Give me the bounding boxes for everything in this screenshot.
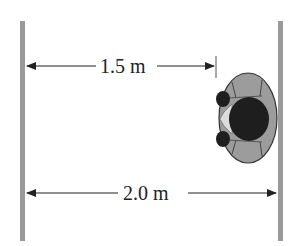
person-icon bbox=[216, 73, 277, 163]
label-1-5m: 1.5 m bbox=[97, 55, 149, 77]
label-2-0m: 2.0 m bbox=[120, 182, 172, 204]
diagram-canvas bbox=[0, 0, 299, 246]
left-wall bbox=[20, 21, 25, 241]
right-wall bbox=[278, 21, 283, 241]
